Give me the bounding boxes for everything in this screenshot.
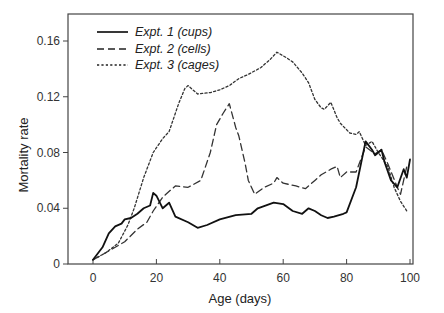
x-tick-label: 80 — [340, 271, 354, 285]
series-line-dotted — [93, 52, 407, 260]
x-axis-title: Age (days) — [209, 291, 272, 306]
legend-label: Expt. 3 (cages) — [135, 58, 219, 72]
x-tick-label: 100 — [400, 271, 420, 285]
y-tick-label: 0.04 — [37, 201, 61, 215]
y-tick-label: 0 — [53, 257, 60, 271]
plot-border — [68, 14, 413, 264]
data-series — [93, 52, 410, 260]
legend-label: Expt. 2 (cells) — [135, 42, 211, 56]
x-tick-label: 60 — [277, 271, 291, 285]
y-tick-label: 0.08 — [37, 146, 61, 160]
y-axis-title: Mortality rate — [16, 117, 31, 192]
series-line-solid — [93, 141, 410, 259]
y-tick-label: 0.12 — [37, 90, 61, 104]
x-tick-label: 20 — [150, 271, 164, 285]
x-tick-label: 40 — [213, 271, 227, 285]
legend: Expt. 1 (cups)Expt. 2 (cells)Expt. 3 (ca… — [97, 25, 219, 72]
axis-ticks: 00.040.080.120.16020406080100 — [37, 34, 421, 285]
series-line-dashed — [93, 104, 407, 260]
mortality-chart: 00.040.080.120.16020406080100 Expt. 1 (c… — [0, 0, 444, 313]
x-tick-label: 0 — [90, 271, 97, 285]
legend-label: Expt. 1 (cups) — [135, 25, 212, 39]
y-tick-label: 0.16 — [37, 34, 61, 48]
plot-frame — [68, 14, 413, 264]
